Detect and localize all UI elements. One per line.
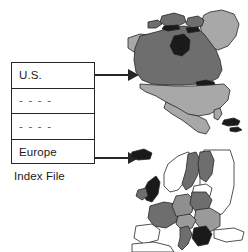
table-row[interactable]: Europe bbox=[12, 140, 94, 166]
region-florida bbox=[214, 108, 222, 120]
table-row[interactable]: - - - - bbox=[12, 114, 94, 140]
arrow-shaft bbox=[95, 74, 130, 76]
index-entry-label: Europe bbox=[19, 147, 57, 159]
region-iceland bbox=[131, 149, 152, 160]
region-spain bbox=[134, 224, 160, 244]
index-file-table: U.S. - - - - - - - - Europe bbox=[11, 62, 95, 164]
table-row[interactable]: U.S. bbox=[12, 63, 94, 89]
map-north-america bbox=[126, 8, 248, 138]
index-entry-placeholder: - - - - bbox=[19, 95, 52, 107]
region-italy bbox=[178, 226, 192, 250]
region-arctic-islands bbox=[186, 16, 204, 28]
region-caribbean bbox=[230, 127, 242, 132]
map-europe bbox=[130, 146, 248, 252]
region-north-africa bbox=[132, 242, 174, 252]
diagram-canvas: U.S. - - - - - - - - Europe Index File bbox=[0, 0, 248, 252]
index-entry-placeholder: - - - - bbox=[19, 121, 52, 133]
index-entry-label: U.S. bbox=[19, 70, 42, 82]
index-file-caption: Index File bbox=[14, 170, 65, 182]
arrow-shaft bbox=[95, 157, 130, 159]
region-caribbean bbox=[222, 118, 240, 126]
region-arctic-islands bbox=[160, 13, 186, 26]
table-row[interactable]: - - - - bbox=[12, 89, 94, 115]
region-anatolia bbox=[214, 228, 244, 242]
